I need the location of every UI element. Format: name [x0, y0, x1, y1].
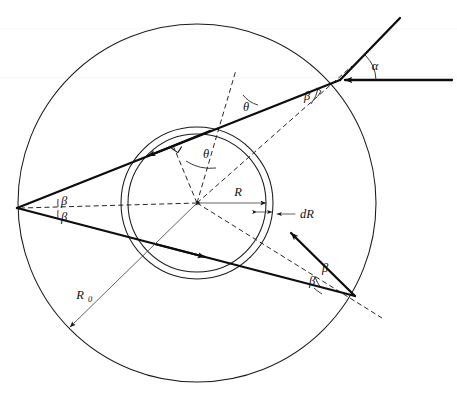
right-angle-marker — [172, 147, 182, 153]
radius-R-label: R — [233, 185, 242, 199]
axis-dash-left — [22, 203, 197, 208]
angle-label-beta-left-upper: β — [60, 194, 68, 208]
chord-ray-lower-arrowhead — [155, 244, 205, 257]
normal-dash-entry — [197, 66, 352, 203]
angle-label-beta-left-lower: β — [60, 210, 68, 224]
radius-R0-measure-line — [70, 203, 197, 327]
optics-ray-diagram-figure: R dR R 0 α β θ θ β β β β — [0, 0, 457, 394]
angle-label-beta-exit-lower: β — [308, 274, 316, 288]
thickness-dR-label: dR — [300, 207, 314, 221]
radius-R0-subscript: 0 — [88, 294, 93, 304]
normal-dash-shell-upper — [197, 70, 236, 203]
perpendicular-dash-foot — [172, 143, 197, 203]
angle-label-beta-entry: β — [303, 89, 311, 103]
chord-ray-upper-arrowhead — [148, 131, 210, 156]
radius-R0-label: R — [75, 288, 84, 302]
angle-label-beta-exit-upper: β — [321, 261, 329, 275]
diagram-canvas: R dR R 0 α β θ θ β β β β — [0, 0, 457, 394]
upper-exit-ray — [340, 18, 400, 80]
angle-arc-beta-exit-lower — [314, 288, 322, 294]
angle-label-alpha: α — [372, 59, 379, 73]
normal-dash-exit — [197, 203, 382, 318]
angle-label-theta-inner: θ — [203, 147, 209, 161]
angle-arc-theta-inner — [186, 161, 216, 168]
angle-label-theta-upper: θ — [243, 100, 249, 114]
